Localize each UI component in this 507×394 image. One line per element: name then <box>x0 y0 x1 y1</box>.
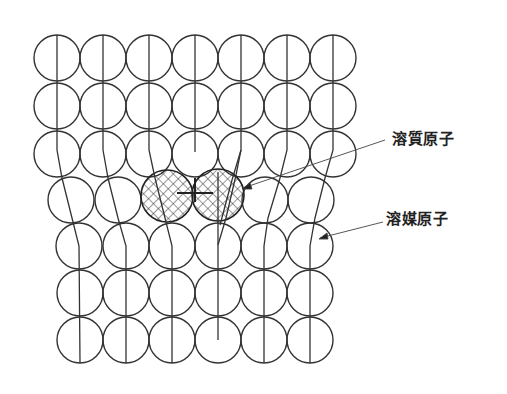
lattice-line-1 <box>57 35 80 363</box>
solid-solution-lattice-diagram <box>0 0 507 394</box>
lattice-line-2 <box>103 35 126 363</box>
solute-atom-label: 溶質原子 <box>392 127 454 148</box>
solvent-leader-line <box>320 222 383 238</box>
solvent-arrowhead-icon <box>319 233 328 239</box>
lattice-line-7 <box>310 35 333 363</box>
lattice-line-6 <box>264 35 287 363</box>
solute-arrowhead-icon <box>242 183 252 189</box>
solvent-atom-label: 溶媒原子 <box>386 207 448 228</box>
solute-atom <box>141 170 193 222</box>
solvent-atom <box>288 177 334 223</box>
